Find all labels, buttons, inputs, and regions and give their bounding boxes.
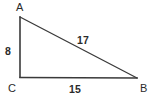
side-cb-line	[20, 78, 137, 79]
vertex-label-a: A	[16, 2, 24, 13]
triangle-figure: A C B 8 15 17	[0, 0, 152, 107]
vertex-label-c: C	[8, 83, 16, 94]
side-ab-line	[20, 17, 137, 78]
side-length-label-ac: 8	[5, 46, 11, 57]
vertex-label-b: B	[140, 83, 148, 94]
side-length-label-ab: 17	[77, 35, 89, 46]
side-length-label-cb: 15	[69, 84, 81, 95]
